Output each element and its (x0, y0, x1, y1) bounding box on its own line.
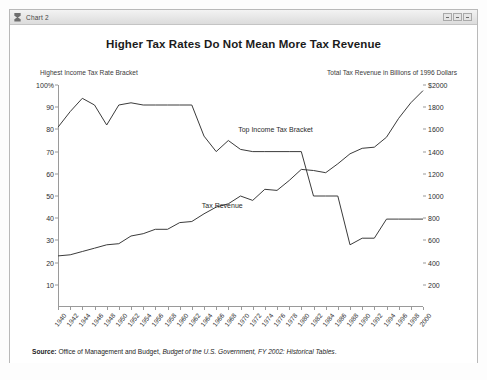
x-axis-tick-label: 1998 (406, 312, 421, 328)
y-axis-right-tickmark (423, 129, 426, 130)
x-axis-tickmark (265, 307, 266, 310)
x-axis-tick-label: 2000 (418, 312, 433, 328)
y-axis-right-tick: 200 (428, 281, 440, 288)
window-titlebar[interactable]: Chart 2 (10, 10, 477, 25)
y-axis-left-tick: 90 (46, 104, 54, 111)
y-axis-left-tickmark (55, 196, 58, 197)
x-axis-tickmark (131, 307, 132, 310)
y-axis-right-tickmark (423, 173, 426, 174)
x-axis-tickmark (95, 307, 96, 310)
y-axis-right-tickmark (423, 262, 426, 263)
y-axis-right-tickmark (423, 151, 426, 152)
y-axis-right-tick: 1800 (428, 104, 444, 111)
x-axis-tick-label: 1954 (138, 312, 153, 328)
x-axis-tickmark (326, 307, 327, 310)
x-axis-tick-label: 1966 (211, 312, 226, 328)
x-axis-tickmark (241, 307, 242, 310)
x-axis-tick-label: 1994 (381, 312, 396, 328)
y-axis-left-tick: 70 (46, 148, 54, 155)
window-title: Chart 2 (26, 14, 49, 21)
y-axis-left-tickmark (55, 262, 58, 263)
x-axis-tick-label: 1956 (150, 312, 165, 328)
y-axis-left-tick: 60 (46, 170, 54, 177)
y-axis-left-tickmark (55, 173, 58, 174)
x-axis-tickmark (277, 307, 278, 310)
y-axis-left-tick: 10 (46, 281, 54, 288)
chart-window: Chart 2 Higher Tax Rates Do Not Mean Mor… (9, 9, 478, 363)
x-axis-tickmark (143, 307, 144, 310)
x-axis-tick-label: 1942 (65, 312, 80, 328)
x-axis-tickmark (58, 307, 59, 310)
window-controls[interactable] (443, 13, 472, 21)
x-axis-tickmark (168, 307, 169, 310)
x-axis-tickmark (216, 307, 217, 310)
x-axis-tick-label: 1970 (235, 312, 250, 328)
y-axis-left-tick: 20 (46, 259, 54, 266)
y-axis-left-tick: 30 (46, 237, 54, 244)
x-axis-tickmark (119, 307, 120, 310)
y-axis-left-tickmark (55, 218, 58, 219)
y-axis-right-tick: 1200 (428, 170, 444, 177)
y-axis-left-tick: 80 (46, 126, 54, 133)
y-axis-right-tickmark (423, 240, 426, 241)
x-axis-tickmark (107, 307, 108, 310)
x-axis-tick-label: 1962 (187, 312, 202, 328)
left-axis-caption: Highest Income Tax Rate Bracket (40, 69, 138, 76)
close-button[interactable] (463, 13, 472, 21)
x-axis-tick-label: 1986 (333, 312, 348, 328)
maximize-button[interactable] (453, 13, 462, 21)
x-axis-tickmark (228, 307, 229, 310)
x-axis-tickmark (350, 307, 351, 310)
y-axis-right-tick: $2000 (428, 82, 447, 89)
x-axis-tick-label: 1974 (260, 312, 275, 328)
y-axis-left-tickmark (55, 151, 58, 152)
x-axis-tickmark (253, 307, 254, 310)
x-axis-tickmark (289, 307, 290, 310)
x-axis-tickmark (192, 307, 193, 310)
x-axis-tickmark (411, 307, 412, 310)
x-axis-tick-label: 1976 (272, 312, 287, 328)
x-axis-tickmark (399, 307, 400, 310)
x-axis-tick-label: 1980 (296, 312, 311, 328)
series-lines (58, 85, 423, 307)
y-axis-right-tick: 1600 (428, 126, 444, 133)
x-axis-tickmark (204, 307, 205, 310)
x-axis-tickmark (338, 307, 339, 310)
y-axis-right-tick: 400 (428, 259, 440, 266)
y-axis-left-tickmark (55, 240, 58, 241)
x-axis-tick-label: 1990 (357, 312, 372, 328)
y-axis-right-tickmark (423, 107, 426, 108)
series-line (58, 98, 423, 245)
x-axis-tickmark (180, 307, 181, 310)
screenshot-root: Chart 2 Higher Tax Rates Do Not Mean Mor… (0, 0, 487, 380)
y-axis-left-tickmark (55, 107, 58, 108)
source-citation: Budget of the U.S. Government, FY 2002: … (162, 348, 334, 355)
x-axis-tickmark (301, 307, 302, 310)
x-axis-tickmark (70, 307, 71, 310)
y-axis-right-tickmark (423, 218, 426, 219)
y-axis-right-tick: 800 (428, 215, 440, 222)
y-axis-left-tick: 100% (36, 82, 54, 89)
x-axis-tick-label: 1946 (89, 312, 104, 328)
minimize-button[interactable] (443, 13, 452, 21)
y-axis-right-tick: 600 (428, 237, 440, 244)
x-axis-tick-label: 1940 (53, 312, 68, 328)
x-axis-tick-label: 1964 (199, 312, 214, 328)
y-axis-left-tickmark (55, 129, 58, 130)
x-axis-tickmark (374, 307, 375, 310)
y-axis-right-tick: 1400 (428, 148, 444, 155)
x-axis-tickmark (423, 307, 424, 310)
x-axis-tickmark (362, 307, 363, 310)
x-axis-tickmark (314, 307, 315, 310)
x-axis-tick-label: 1952 (126, 312, 141, 328)
source-period: . (335, 348, 337, 355)
x-axis-tick-label: 1978 (284, 312, 299, 328)
x-axis-tickmark (155, 307, 156, 310)
chart-content: Higher Tax Rates Do Not Mean More Tax Re… (10, 25, 477, 363)
x-axis-tick-label: 1968 (223, 312, 238, 328)
series-annotation: Top Income Tax Bracket (238, 126, 313, 133)
plot-area: 100%908070605040302010$20001800160014001… (58, 85, 423, 307)
chart-window-icon (13, 13, 22, 22)
y-axis-left-tick: 50 (46, 193, 54, 200)
y-axis-right-tickmark (423, 284, 426, 285)
